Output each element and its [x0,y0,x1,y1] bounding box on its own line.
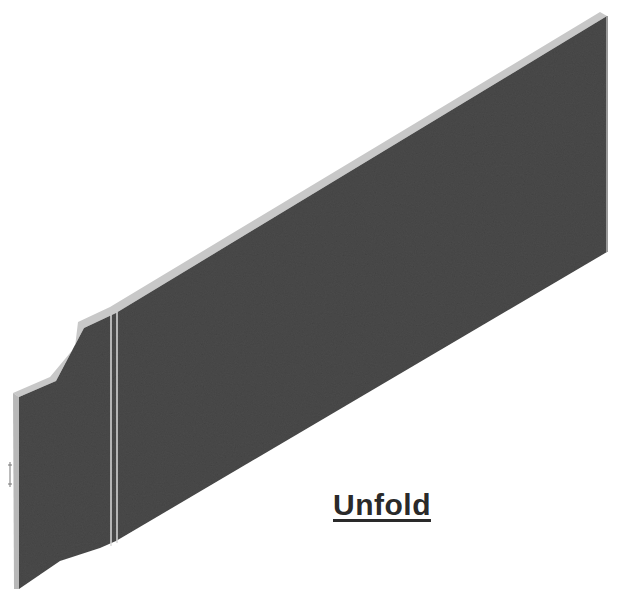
dimension-marker-icon [8,462,12,487]
figure-caption: Unfold [333,488,431,522]
unfolded-part-drawing [0,0,624,606]
part-face [19,16,607,589]
part-left-edge [13,393,19,589]
